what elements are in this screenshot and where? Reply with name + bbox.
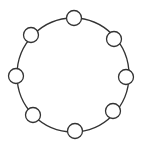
node-left — [9, 69, 24, 84]
ring-topology-graphic — [0, 0, 146, 151]
ring-diagram — [0, 0, 146, 151]
node-right — [119, 70, 134, 85]
node-bottom — [68, 124, 83, 139]
node-bottom-right — [106, 104, 121, 119]
nodes-group — [9, 11, 134, 139]
node-top — [67, 11, 82, 26]
node-top-right — [107, 32, 122, 47]
node-bottom-left — [26, 108, 41, 123]
node-top-left — [24, 28, 39, 43]
